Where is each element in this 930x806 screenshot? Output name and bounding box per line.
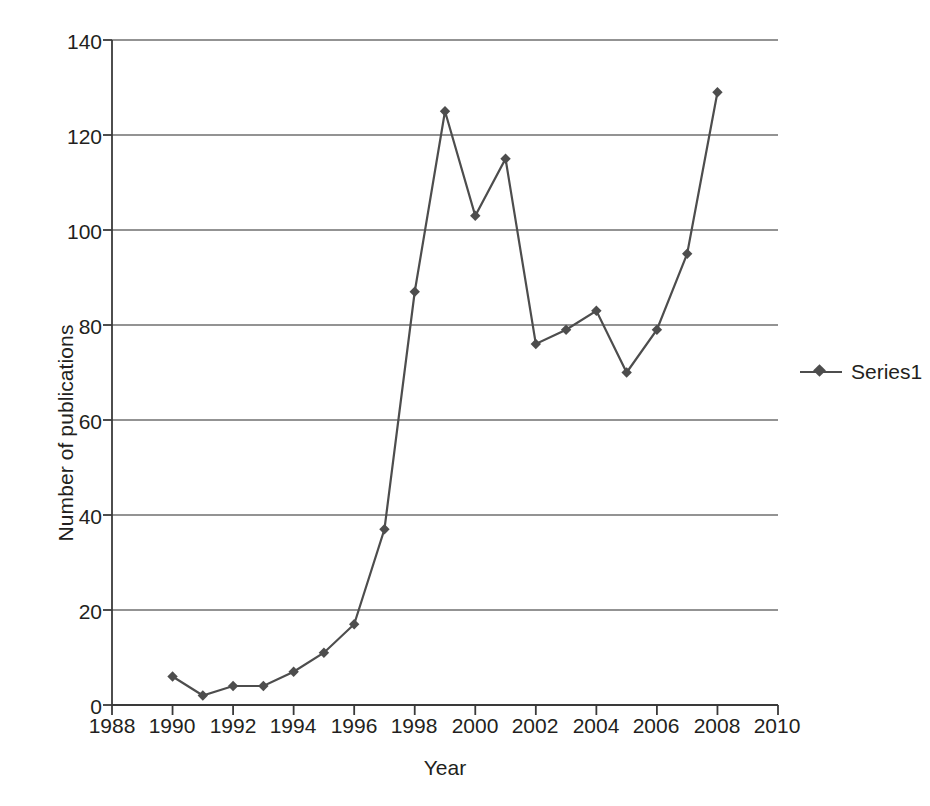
publications-per-year-line-chart: Number of publications Year 140 120 100 … <box>0 0 930 806</box>
y-axis-ticks <box>103 40 112 705</box>
legend-entry-label: Series1 <box>851 360 922 384</box>
x-axis-ticks <box>112 705 778 715</box>
series1-line <box>173 92 718 695</box>
plot-area <box>0 0 930 806</box>
legend-diamond-marker <box>813 364 826 377</box>
line-diamond-marker-icon <box>800 365 842 379</box>
gridlines <box>112 40 778 610</box>
legend: Series1 <box>800 360 922 384</box>
series1-markers <box>167 87 722 701</box>
axis-lines <box>112 40 778 705</box>
